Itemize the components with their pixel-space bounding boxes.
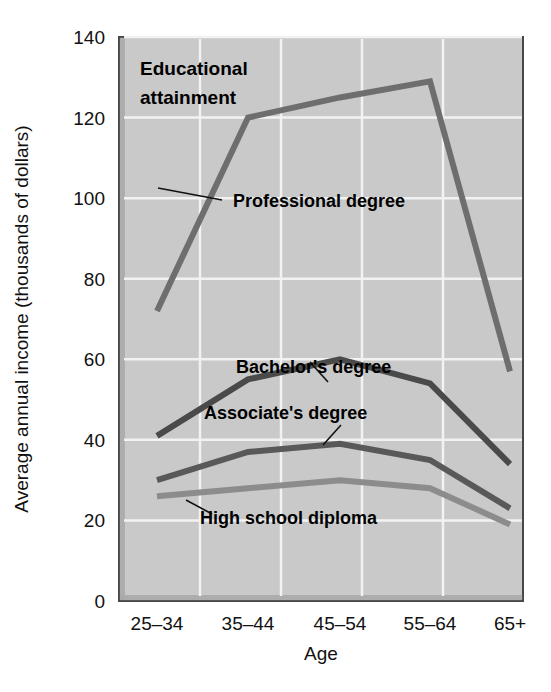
plot-shadow-bottom: [119, 595, 523, 601]
y-axis-tick-labels: 020406080100120140: [73, 27, 105, 612]
y-tick-label-80: 80: [84, 269, 105, 290]
x-axis-title: Age: [304, 643, 338, 664]
y-tick-label-0: 0: [94, 591, 105, 612]
y-tick-label-40: 40: [84, 430, 105, 451]
y-tick-label-120: 120: [73, 108, 105, 129]
income-by-education-line-chart: 020406080100120140 25–3435–4445–5455–646…: [0, 0, 551, 692]
x-tick-label-2: 45–54: [314, 613, 367, 634]
series-label-0: Professional degree: [233, 191, 405, 211]
y-tick-label-60: 60: [84, 349, 105, 370]
figure-container: 020406080100120140 25–3435–4445–5455–646…: [0, 0, 551, 692]
annotation-title-line1: Educational: [140, 58, 248, 79]
x-tick-label-1: 35–44: [222, 613, 275, 634]
y-tick-label-20: 20: [84, 510, 105, 531]
x-tick-label-3: 55–64: [404, 613, 457, 634]
series-label-2: Associate's degree: [204, 403, 367, 423]
x-axis-tick-labels: 25–3435–4445–5455–6465+: [131, 613, 527, 634]
annotation-title-line2: attainment: [140, 87, 237, 108]
y-tick-label-100: 100: [73, 188, 105, 209]
series-label-1: Bachelor's degree: [236, 357, 391, 377]
y-tick-label-140: 140: [73, 27, 105, 48]
series-label-3: High school diploma: [200, 508, 378, 528]
plot-shadow-left: [119, 37, 125, 601]
x-tick-label-4: 65+: [494, 613, 526, 634]
x-tick-label-0: 25–34: [131, 613, 184, 634]
y-axis-title: Average annual income (thousands of doll…: [11, 125, 32, 512]
